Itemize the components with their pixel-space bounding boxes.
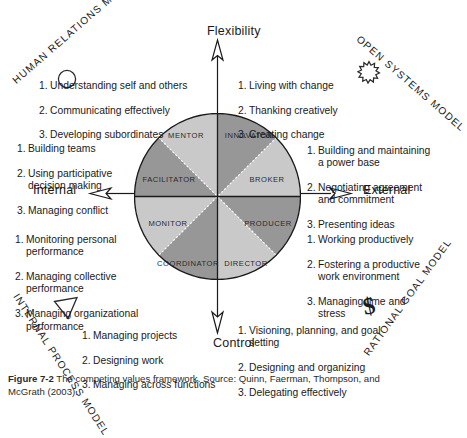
segment-label-facilitator: FACILITATOR <box>142 175 195 184</box>
list-item-text: Using participative decision making <box>28 168 112 191</box>
competency-list-director: 1.Visioning, planning, and goal setting … <box>238 300 398 424</box>
list-item-text: Building and maintaining a power base <box>318 145 430 168</box>
list-item: 1.Visioning, planning, and goal setting <box>238 325 398 350</box>
segment-label-monitor: MONITOR <box>148 219 187 228</box>
list-item: 1.Living with change <box>238 80 373 92</box>
list-item: 1.Working productively <box>307 234 435 246</box>
figure-caption: Figure 7-2 The competing values framewor… <box>8 372 431 398</box>
list-item: 2.Negotiating agreement and commitment <box>307 182 435 207</box>
list-item-text: Living with change <box>249 80 334 91</box>
figure-caption-text: The competing values framework. Source: … <box>56 373 380 384</box>
list-item: 2.Managing collective performance <box>15 271 150 296</box>
list-item: 2.Using participative decision making <box>17 168 142 193</box>
competency-list-coordinator: 1.Managing projects 2.Designing work 3.M… <box>82 305 232 417</box>
competing-values-framework-figure: MENTOR INNOVATOR BROKER PRODUCER DIRECTO… <box>0 0 439 362</box>
list-item-text: Visioning, planning, and goal setting <box>249 325 381 348</box>
list-item: 1.Building and maintaining a power base <box>307 145 435 170</box>
list-item: 1.Understanding self and others <box>39 80 214 92</box>
list-item: 1.Monitoring personal performance <box>15 234 150 259</box>
figure-caption-label: Figure 7-2 <box>8 373 54 384</box>
list-item: 2.Fostering a productive work environmen… <box>307 259 435 284</box>
list-item-text: Communicating effectively <box>50 105 170 116</box>
list-item-text: Managing projects <box>93 330 177 341</box>
segment-label-director: DIRECTOR <box>224 259 268 268</box>
list-item: 1.Building teams <box>17 143 142 155</box>
list-item-text: Thanking creatively <box>249 105 338 116</box>
list-item-text: Monitoring personal performance <box>26 234 116 257</box>
axis-label-flexibility: Flexibility <box>207 24 261 38</box>
list-item-text: Fostering a productive work environment <box>318 259 420 282</box>
segment-label-coordinator: COORDINATOR <box>157 259 219 268</box>
list-item: 2.Designing work <box>82 355 232 367</box>
list-item-text: Negotiating agreement and commitment <box>318 182 422 205</box>
list-item-text: Designing work <box>93 355 163 366</box>
list-item: 1.Managing projects <box>82 330 232 342</box>
list-item-text: Working productively <box>318 234 413 245</box>
list-item: 2.Thanking creatively <box>238 105 373 117</box>
list-item-text: Understanding self and others <box>50 80 187 91</box>
figure-caption-tail: McGrath (2003). <box>8 385 431 398</box>
list-item-text: Managing collective performance <box>26 271 116 294</box>
list-item: 2.Communicating effectively <box>39 105 214 117</box>
list-item-text: Building teams <box>28 143 96 154</box>
segment-label-producer: PRODUCER <box>244 219 291 228</box>
segment-label-broker: BROKER <box>249 175 284 184</box>
